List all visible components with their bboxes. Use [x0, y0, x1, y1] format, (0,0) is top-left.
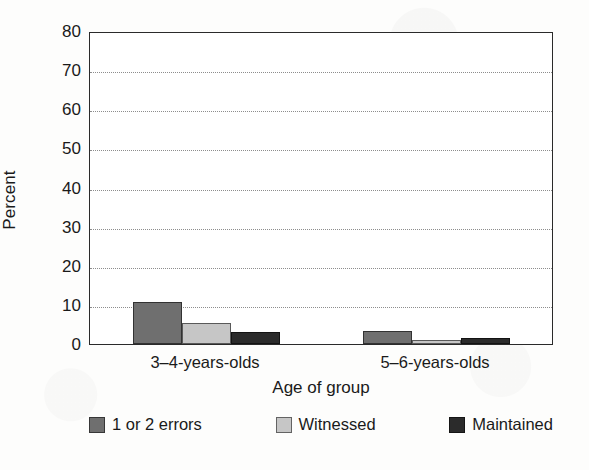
- legend-label: 1 or 2 errors: [112, 415, 202, 434]
- legend-item[interactable]: Witnessed: [276, 415, 376, 434]
- y-tick-label: 20: [35, 258, 81, 275]
- x-tick-label: 3–4-years-olds: [115, 353, 295, 372]
- y-tick-label: 40: [35, 180, 81, 197]
- bar: [461, 338, 510, 344]
- gridline-50: [90, 150, 552, 151]
- gridline-30: [90, 229, 552, 230]
- y-tick-label: 70: [35, 62, 81, 79]
- y-tick-label: 0: [35, 336, 81, 353]
- y-tick-label: 50: [35, 140, 81, 157]
- legend-swatch-icon: [276, 417, 292, 433]
- bar: [412, 340, 461, 344]
- bar: [363, 331, 412, 344]
- y-axis-title: Percent: [0, 140, 20, 260]
- legend-label: Witnessed: [299, 415, 376, 434]
- gridline-40: [90, 190, 552, 191]
- legend-item[interactable]: 1 or 2 errors: [89, 415, 202, 434]
- x-tick-label: 5–6-years-olds: [345, 353, 525, 372]
- legend-item[interactable]: Maintained: [449, 415, 553, 434]
- gridline-20: [90, 268, 552, 269]
- y-tick-label: 10: [35, 297, 81, 314]
- bar: [133, 302, 182, 344]
- chart-legend: 1 or 2 errorsWitnessedMaintained: [89, 415, 553, 434]
- legend-label: Maintained: [472, 415, 553, 434]
- gridline-70: [90, 72, 552, 73]
- x-axis-title: Age of group: [89, 378, 553, 398]
- plot-area: [89, 32, 553, 345]
- y-tick-label: 60: [35, 101, 81, 118]
- chart-figure: Percent 01020304050607080 3–4-years-olds…: [0, 0, 589, 470]
- legend-swatch-icon: [89, 417, 105, 433]
- bar: [182, 323, 231, 344]
- gridline-60: [90, 111, 552, 112]
- y-tick-label: 80: [35, 23, 81, 40]
- bar: [231, 332, 280, 344]
- legend-swatch-icon: [449, 417, 465, 433]
- y-tick-label: 30: [35, 219, 81, 236]
